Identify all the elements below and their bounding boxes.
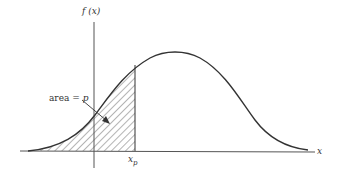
area-label-prefix: area = [49, 93, 83, 103]
percentile-subscript: p [133, 159, 137, 167]
diagram-graphic [0, 0, 338, 181]
percentile-label: xp [128, 154, 138, 167]
x-axis-label: x [317, 146, 322, 156]
area-label: area = p [49, 93, 88, 103]
y-axis-label-text: f (x) [82, 6, 100, 16]
x-axis [20, 151, 315, 152]
pdf-diagram: f (x) x xp area = p [0, 0, 338, 181]
area-label-var: p [83, 93, 89, 103]
x-axis-label-text: x [317, 146, 322, 156]
y-axis-label: f (x) [82, 6, 100, 16]
